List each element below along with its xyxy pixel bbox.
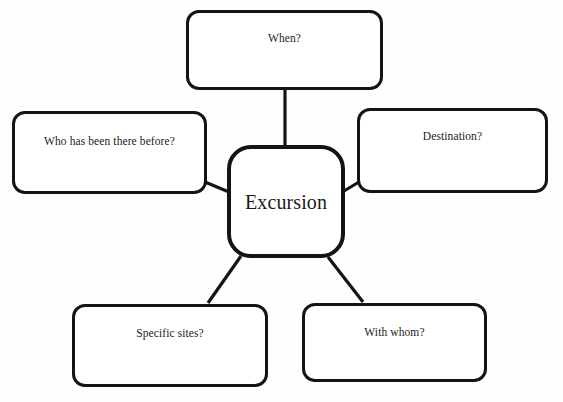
branch-node-with-whom[interactable]: With whom?	[302, 303, 487, 382]
branch-node-who-has-been-there-before[interactable]: Who has been there before?	[12, 111, 207, 194]
center-node-excursion[interactable]: Excursion	[227, 145, 345, 258]
branch-node-destination[interactable]: Destination?	[357, 108, 548, 193]
connector-center-to-bottomleft	[208, 256, 241, 303]
branch-label-specific-sites: Specific sites?	[75, 327, 265, 339]
connector-center-to-left	[205, 182, 229, 192]
branch-label-destination: Destination?	[360, 130, 545, 142]
mind-map-canvas: When? Who has been there before? Destina…	[0, 0, 563, 402]
branch-label-who-has-been-there-before: Who has been there before?	[15, 135, 204, 147]
center-node-label: Excursion	[231, 191, 341, 214]
connector-center-to-bottomright	[328, 257, 363, 302]
branch-label-with-whom: With whom?	[305, 326, 484, 338]
branch-label-when: When?	[189, 32, 380, 44]
branch-node-specific-sites[interactable]: Specific sites?	[72, 304, 268, 387]
branch-node-when[interactable]: When?	[186, 10, 383, 90]
